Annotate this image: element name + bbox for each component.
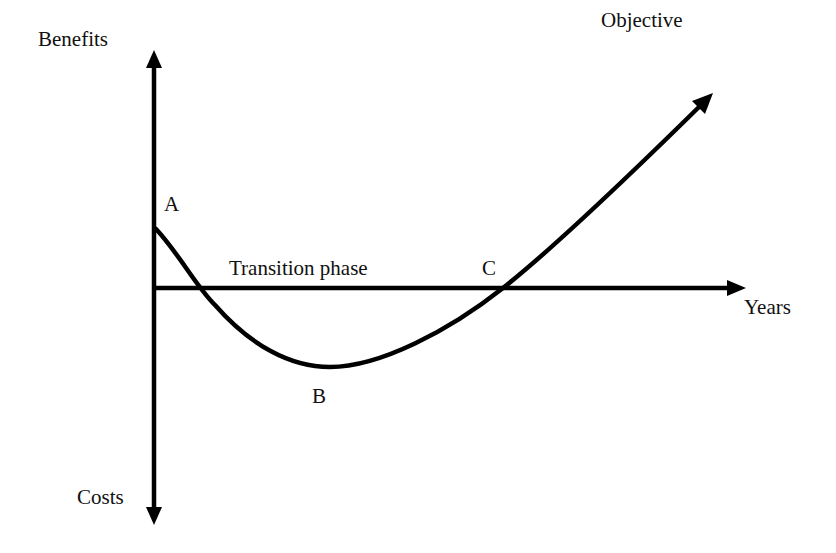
x-axis	[154, 280, 746, 296]
j-curve-diagram	[0, 0, 836, 553]
y-axis-costs-label: Costs	[77, 487, 124, 508]
arrow-up-icon	[146, 50, 162, 68]
diagram-canvas: Benefits Costs Years Objective Transitio…	[0, 0, 836, 553]
x-axis-years-label: Years	[744, 297, 791, 318]
point-a-label: A	[164, 194, 179, 215]
arrow-right-icon	[727, 280, 746, 296]
point-b-label: B	[312, 386, 326, 407]
transition-phase-label: Transition phase	[229, 258, 368, 279]
objective-label: Objective	[601, 10, 683, 31]
j-curve	[156, 93, 713, 367]
arrow-down-icon	[146, 507, 162, 525]
point-c-label: C	[482, 258, 496, 279]
y-axis-benefits-label: Benefits	[38, 29, 108, 50]
